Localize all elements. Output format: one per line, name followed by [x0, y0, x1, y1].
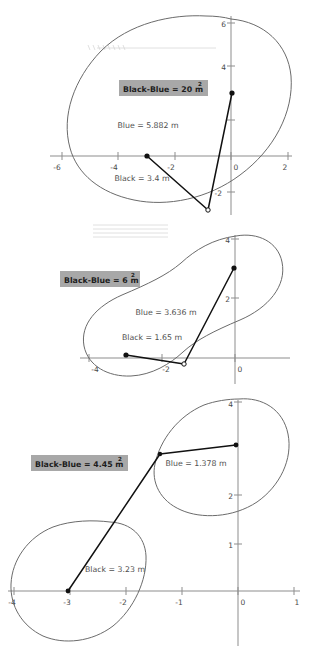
xtick-label: -4	[110, 163, 118, 172]
ytick-label: 4	[221, 63, 226, 72]
xtick-label: 0	[241, 598, 246, 607]
area-badge-superscript: 2	[118, 456, 122, 462]
ytick-label: 4	[228, 400, 233, 409]
shared-vertex-point	[158, 452, 162, 456]
black-measure-label: Black = 3.23 m	[85, 565, 145, 574]
blue-end-point	[229, 90, 234, 95]
area-badge-superscript: 2	[131, 272, 135, 278]
ytick-label: 2	[225, 295, 230, 304]
area-badge-label: Black-Blue = 4.45 m	[35, 460, 123, 469]
xtick-label: 0	[238, 365, 243, 374]
area-badge-label: Black-Blue = 6 m	[64, 276, 139, 285]
panel-2-svg: -4 -2 0 2 4 Blue = 3.636 m Black = 1.65 …	[0, 212, 317, 397]
chart-panel-1: -6 -4 -2 0 2 -2 4 6 Blue = 5.882 m	[0, 0, 317, 215]
black-segment	[147, 156, 208, 210]
panel-3-axes	[8, 400, 300, 646]
xtick-label: 1	[295, 598, 300, 607]
black-measure-label: Black = 3.4 m	[114, 174, 169, 183]
area-badge-label: Black-Blue = 20 m	[123, 85, 203, 94]
panel-1-area-badge: Black-Blue = 20 m 2	[119, 80, 208, 96]
panel-2-tick-labels: -4 -2 0 2 4	[91, 236, 242, 374]
xtick-label: -2	[167, 163, 175, 172]
xtick-label: -3	[63, 598, 71, 607]
panel-3-curve-lower	[11, 521, 146, 641]
panel-3-svg: -4 -3 -2 -1 0 1 1 2 4 Blue = 1.3	[0, 396, 317, 661]
panel-1-svg: -6 -4 -2 0 2 -2 4 6 Blue = 5.882 m	[0, 0, 317, 215]
xtick-label: -1	[175, 598, 183, 607]
panel-3-tick-labels: -4 -3 -2 -1 0 1 1 2 4	[8, 400, 299, 607]
panel-2-curve	[83, 235, 282, 376]
shared-vertex-point	[182, 362, 186, 366]
black-start-point	[144, 153, 149, 158]
xtick-label: 0	[234, 163, 239, 172]
black-measure-label: Black = 1.65 m	[122, 333, 182, 342]
xtick-label: -2	[119, 598, 127, 607]
black-start-point	[123, 352, 128, 357]
xtick-label: 2	[283, 163, 288, 172]
black-segment	[126, 355, 184, 364]
black-start-point	[66, 589, 71, 594]
blue-measure-label: Blue = 3.636 m	[135, 308, 196, 317]
blue-end-point	[231, 265, 236, 270]
ghost-artifact-2	[93, 225, 168, 237]
panel-3-curve-upper	[154, 399, 289, 516]
chart-panel-3: -4 -3 -2 -1 0 1 1 2 4 Blue = 1.3	[0, 396, 317, 661]
blue-measure-label: Blue = 5.882 m	[117, 121, 178, 130]
ytick-label: 2	[228, 492, 233, 501]
figure-page: -6 -4 -2 0 2 -2 4 6 Blue = 5.882 m	[0, 0, 317, 661]
blue-end-point	[234, 443, 239, 448]
panel-1-curve	[67, 16, 291, 203]
panel-2-area-badge: Black-Blue = 6 m 2	[60, 271, 140, 287]
xtick-label: -4	[91, 365, 99, 374]
area-badge-superscript: 2	[198, 81, 202, 87]
blue-measure-label: Blue = 1.378 m	[165, 459, 226, 468]
xtick-label: -6	[53, 163, 61, 172]
ytick-label: 1	[228, 541, 233, 550]
blue-segment	[160, 445, 236, 454]
chart-panel-2: -4 -2 0 2 4 Blue = 3.636 m Black = 1.65 …	[0, 212, 317, 397]
ytick-label: 6	[221, 20, 226, 29]
panel-1-axes	[50, 16, 292, 215]
ytick-label: -2	[215, 189, 223, 198]
panel-3-area-badge: Black-Blue = 4.45 m 2	[31, 455, 128, 471]
